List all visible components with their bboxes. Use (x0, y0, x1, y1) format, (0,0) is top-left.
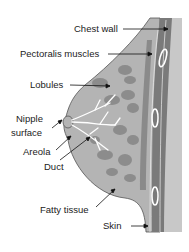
label-lobules: Lobules (30, 80, 63, 90)
label-areola: Areola (23, 147, 50, 157)
label-fatty-tissue: Fatty tissue (40, 205, 89, 215)
label-nipple: Nipple (16, 114, 43, 124)
label-duct: Duct (44, 162, 64, 172)
label-skin: Skin (103, 221, 121, 231)
breast-anatomy-illustration (0, 0, 189, 252)
label-chest-wall: Chest wall (74, 24, 118, 34)
label-pectoralis-muscles: Pectoralis muscles (20, 49, 99, 59)
label-surface: surface (11, 128, 42, 138)
